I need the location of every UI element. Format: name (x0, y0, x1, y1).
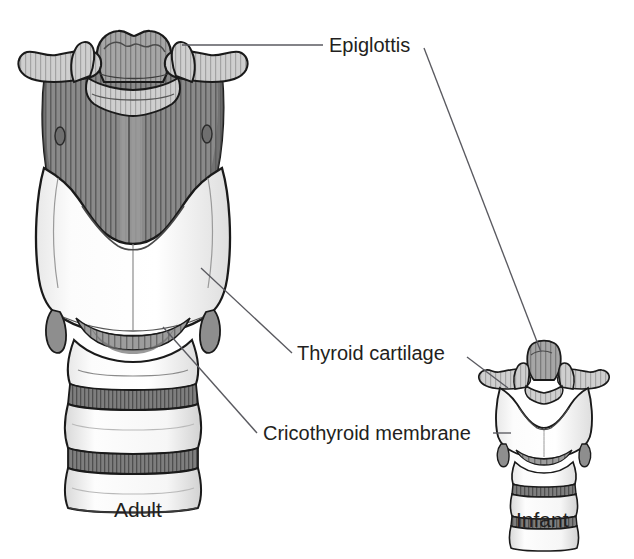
epiglottis-adult (97, 31, 171, 82)
caption-infant: Infant (516, 508, 569, 531)
label-thyroid-cartilage: Thyroid cartilage (297, 342, 445, 364)
tracheal-rings-adult (65, 384, 201, 513)
label-cricothyroid-membrane: Cricothyroid membrane (263, 422, 471, 444)
caption-adult: Adult (114, 498, 162, 521)
label-epiglottis: Epiglottis (329, 34, 410, 56)
larynx-comparison-figure: Epiglottis Thyroid cartilage Cricothyroi… (0, 0, 634, 559)
epiglottis-infant (527, 341, 561, 380)
